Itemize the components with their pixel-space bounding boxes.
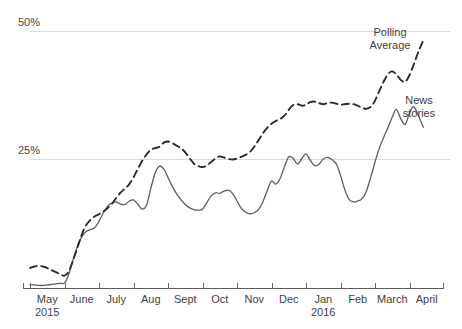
x-tick-sublabel-2016: 2016 (311, 306, 335, 318)
x-tick-label-dec: Dec (279, 293, 299, 305)
series-paths (30, 40, 423, 285)
x-tick-label-jan: Jan (314, 293, 332, 305)
series-line-news-stories (30, 107, 423, 286)
x-tick-label-june: June (70, 293, 94, 305)
y-axis-tick-labels: 50% 25% (18, 16, 40, 156)
x-tick-label-aug: Aug (141, 293, 161, 305)
x-tick-label-nov: Nov (244, 293, 264, 305)
x-tick-label-april: April (416, 293, 438, 305)
x-tick-label-oct: Oct (211, 293, 228, 305)
x-tick-label-feb: Feb (348, 293, 367, 305)
annotation-polling-average-line2: Average (370, 39, 411, 51)
annotation-news-stories-line1: News (405, 94, 433, 106)
y-tick-label-50: 50% (18, 16, 40, 28)
series-annotations: Polling Average News stories (370, 26, 436, 119)
x-tick-label-may: May (37, 293, 58, 305)
x-tick-label-july: July (106, 293, 126, 305)
annotation-polling-average-line1: Polling (373, 26, 406, 38)
chart-container: 50% 25% May2015JuneJulyAugSeptOctNovDecJ… (0, 0, 462, 329)
x-axis-ticks (31, 283, 411, 289)
series-line-polling-average (30, 40, 423, 276)
x-tick-label-march: March (377, 293, 408, 305)
x-axis (23, 283, 444, 289)
annotation-news-stories-line2: stories (403, 107, 436, 119)
x-axis-labels: May2015JuneJulyAugSeptOctNovDecJan2016Fe… (35, 293, 438, 318)
x-tick-label-sept: Sept (174, 293, 197, 305)
x-tick-sublabel-2015: 2015 (35, 306, 59, 318)
line-chart: 50% 25% May2015JuneJulyAugSeptOctNovDecJ… (0, 0, 462, 329)
y-tick-label-25: 25% (18, 144, 40, 156)
